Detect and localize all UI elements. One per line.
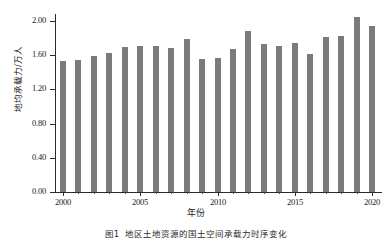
x-tick-mark-minor: [125, 192, 126, 194]
bar: [75, 60, 81, 192]
y-tick-mark: [50, 21, 55, 22]
bar: [215, 58, 221, 192]
x-tick-label: 2020: [352, 197, 392, 207]
bar: [230, 49, 236, 192]
x-tick-mark-minor: [233, 192, 234, 194]
x-axis-label: 年份: [0, 208, 392, 219]
bar: [106, 53, 112, 192]
bar: [338, 36, 344, 192]
x-tick-mark-minor: [326, 192, 327, 194]
y-tick-label: 0.40: [12, 153, 46, 162]
bar: [276, 46, 282, 192]
bar: [199, 59, 205, 192]
bar: [153, 46, 159, 192]
y-tick-label: 0.00: [12, 187, 46, 196]
y-tick-mark: [50, 192, 55, 193]
x-tick-label: 2005: [120, 197, 160, 207]
x-tick-mark-minor: [187, 192, 188, 194]
x-tick-mark-minor: [341, 192, 342, 194]
y-axis-label: 地均承载力/万人: [13, 19, 23, 139]
x-tick-mark-minor: [109, 192, 110, 194]
x-tick-label: 2015: [275, 197, 315, 207]
x-tick-mark: [372, 192, 373, 196]
x-tick-mark-minor: [279, 192, 280, 194]
bar: [369, 26, 375, 192]
x-tick-mark-minor: [264, 192, 265, 194]
x-tick-label: 2000: [43, 197, 83, 207]
x-tick-mark-minor: [78, 192, 79, 194]
x-tick-mark-minor: [357, 192, 358, 194]
x-tick-mark-minor: [171, 192, 172, 194]
caption-number: 图1: [105, 229, 119, 239]
bar: [168, 48, 174, 192]
x-tick-mark: [295, 192, 296, 196]
y-tick-mark: [50, 55, 55, 56]
x-tick-mark: [63, 192, 64, 196]
x-tick-label: 2010: [198, 197, 238, 207]
x-tick-mark-minor: [94, 192, 95, 194]
bar: [261, 44, 267, 192]
x-tick-mark-minor: [310, 192, 311, 194]
bar: [354, 17, 360, 192]
x-tick-mark-minor: [156, 192, 157, 194]
bar: [91, 56, 97, 192]
y-tick-mark: [50, 89, 55, 90]
figure-chart: 0.000.400.801.201.602.00 200020052010201…: [0, 0, 392, 241]
bar: [245, 31, 251, 192]
y-tick-mark: [50, 158, 55, 159]
bar: [307, 54, 313, 192]
bar: [122, 47, 128, 192]
bar: [60, 61, 66, 192]
bar: [292, 43, 298, 192]
bar: [184, 39, 190, 192]
bar: [323, 37, 329, 192]
bar: [137, 46, 143, 192]
caption-text: 地区土地资源的国土空间承载力时序变化: [125, 229, 287, 239]
figure-caption: 图1地区土地资源的国土空间承载力时序变化: [0, 229, 392, 240]
x-tick-mark-minor: [202, 192, 203, 194]
y-tick-mark: [50, 124, 55, 125]
x-tick-mark: [140, 192, 141, 196]
plot-area: [55, 21, 380, 192]
x-tick-mark-minor: [248, 192, 249, 194]
x-tick-mark: [218, 192, 219, 196]
